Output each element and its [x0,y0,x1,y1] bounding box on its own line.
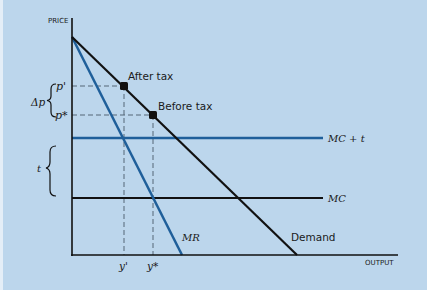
y-star-label: y* [146,260,159,272]
mc-label: MC [327,193,346,204]
after-tax-label: After tax [128,70,173,82]
x-axis-label: OUTPUT [365,259,394,267]
p-star-label: p* [55,109,68,122]
monopoly-tax-diagram: PRICE OUTPUT After tax Before tax MC + t… [0,0,427,290]
p-prime-label: p' [56,80,66,93]
demand-curve [72,37,297,255]
tax-label: t [37,163,42,174]
mc-plus-t-label: MC + t [327,133,366,144]
dashed-guides [72,86,153,255]
mr-label: MR [181,232,200,243]
after-tax-point [120,82,128,90]
before-tax-point [149,111,157,119]
delta-p-label: Δp [30,96,46,108]
y-prime-label: y' [118,260,128,272]
tax-brace [46,146,56,196]
demand-label: Demand [291,231,336,243]
y-axis-label: PRICE [48,17,68,25]
before-tax-label: Before tax [158,100,212,112]
